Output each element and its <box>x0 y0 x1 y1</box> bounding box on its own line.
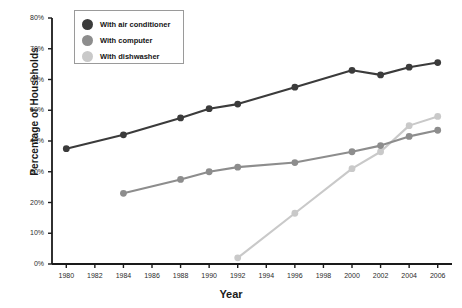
data-point <box>291 210 298 217</box>
legend-marker-icon <box>82 19 93 30</box>
data-point <box>206 168 213 175</box>
y-tick-label: 40% <box>10 137 44 145</box>
y-tick-label: 10% <box>10 229 44 237</box>
y-tick-label: 50% <box>10 106 44 114</box>
x-axis-title: Year <box>0 288 462 300</box>
data-point <box>291 84 298 91</box>
legend-item[interactable]: With dishwasher <box>82 49 160 63</box>
data-point <box>120 131 127 138</box>
data-point <box>349 165 356 172</box>
legend-label: With computer <box>100 36 152 45</box>
legend-marker-icon <box>82 35 93 46</box>
x-tick-label: 2006 <box>421 272 455 280</box>
data-point <box>434 59 441 66</box>
data-point <box>349 148 356 155</box>
y-tick-label: 80% <box>10 14 44 22</box>
y-tick-label: 60% <box>10 76 44 84</box>
y-tick-label: 30% <box>10 168 44 176</box>
legend-marker-icon <box>82 51 93 62</box>
data-point <box>120 190 127 197</box>
data-point <box>349 67 356 74</box>
line-chart: Percentage of Households Year 0%10%20%30… <box>0 0 462 308</box>
legend-label: With air conditioner <box>100 20 170 29</box>
y-tick-label: 70% <box>10 45 44 53</box>
data-point <box>234 101 241 108</box>
data-point <box>377 71 384 78</box>
data-point <box>234 164 241 171</box>
data-point <box>177 115 184 122</box>
data-point <box>234 254 241 261</box>
legend-item[interactable]: With air conditioner <box>82 17 170 31</box>
data-point <box>377 142 384 149</box>
data-point <box>291 159 298 166</box>
data-point <box>406 133 413 140</box>
data-point <box>406 122 413 129</box>
series-line-1 <box>123 130 437 193</box>
data-point <box>63 145 70 152</box>
data-point <box>406 64 413 71</box>
data-point <box>377 148 384 155</box>
legend: With air conditionerWith computerWith di… <box>74 10 184 64</box>
y-tick-label: 20% <box>10 199 44 207</box>
plot-area <box>0 0 462 308</box>
data-point <box>434 127 441 134</box>
y-tick-label: 0% <box>10 260 44 268</box>
legend-item[interactable]: With computer <box>82 33 152 47</box>
data-point <box>434 113 441 120</box>
data-point <box>206 105 213 112</box>
legend-label: With dishwasher <box>100 52 160 61</box>
data-point <box>177 176 184 183</box>
